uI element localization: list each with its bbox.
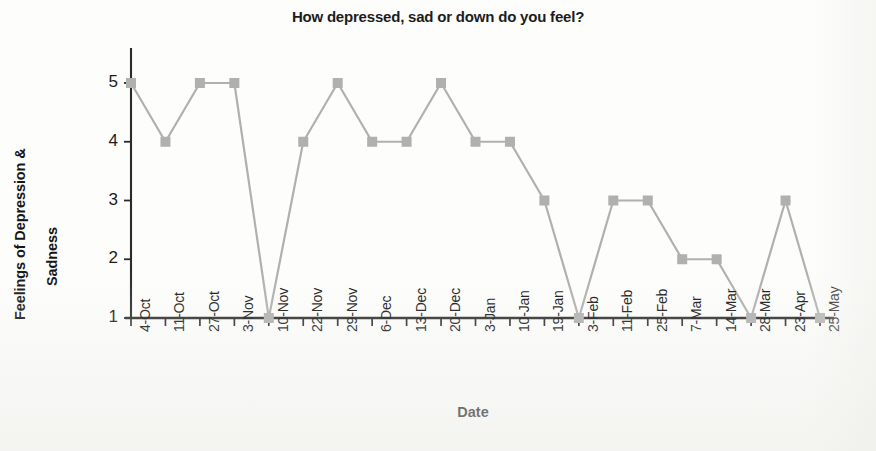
- x-tick-label: 6-Dec: [378, 296, 394, 332]
- data-point-marker: [195, 78, 205, 88]
- data-point-marker: [229, 78, 239, 88]
- data-point-marker: [608, 196, 618, 206]
- data-point-marker: [471, 137, 481, 147]
- x-tick-label: 3-Jan: [482, 298, 498, 332]
- data-point-marker: [643, 196, 653, 206]
- data-point-marker: [781, 196, 791, 206]
- data-point-marker: [574, 313, 584, 323]
- series-polyline: [131, 83, 820, 318]
- axis-ticks: [124, 83, 820, 326]
- y-tick-label: 4: [96, 131, 118, 151]
- series-markers: [126, 78, 825, 323]
- data-point-marker: [677, 254, 687, 264]
- x-axis-title-text: Date: [457, 404, 488, 420]
- data-point-marker: [436, 78, 446, 88]
- data-point-marker: [815, 313, 825, 323]
- x-tick-label: 7-Mar: [688, 296, 704, 332]
- x-tick-label: 22-Nov: [309, 288, 325, 332]
- data-point-marker: [264, 313, 274, 323]
- x-tick-label: 19-Jan: [550, 290, 566, 332]
- y-tick-label: 1: [96, 307, 118, 327]
- x-tick-label: 11-Feb: [619, 290, 635, 332]
- x-tick-label: 25-Feb: [654, 289, 670, 332]
- y-tick-label: 3: [96, 190, 118, 210]
- x-tick-label: 27-Oct: [206, 291, 222, 332]
- x-tick-label: 25-May: [826, 287, 842, 332]
- data-point-marker: [505, 137, 515, 147]
- x-tick-label: 23-Apr: [792, 291, 808, 332]
- data-point-marker: [712, 254, 722, 264]
- x-tick-label: 11-Oct: [171, 292, 187, 332]
- data-point-marker: [539, 196, 549, 206]
- x-tick-label: 3-Nov: [240, 296, 256, 332]
- data-point-marker: [746, 313, 756, 323]
- x-axis-title: Date: [0, 404, 876, 420]
- plot-area: [0, 0, 876, 451]
- y-tick-label: 5: [96, 72, 118, 92]
- data-point-marker: [402, 137, 412, 147]
- x-tick-label: 4-Oct: [137, 299, 153, 332]
- x-tick-label: 28-Mar: [757, 289, 773, 332]
- data-point-marker: [333, 78, 343, 88]
- chart-page: How depressed, sad or down do you feel? …: [0, 0, 876, 451]
- x-tick-label: 10-Jan: [516, 290, 532, 332]
- x-tick-label: 14-Mar: [723, 289, 739, 332]
- data-point-marker: [126, 78, 136, 88]
- data-point-marker: [367, 137, 377, 147]
- x-tick-label: 3-Feb: [585, 296, 601, 332]
- x-tick-label: 20-Dec: [447, 288, 463, 332]
- data-point-marker: [298, 137, 308, 147]
- x-tick-label: 29-Nov: [344, 288, 360, 332]
- series-line: [131, 83, 820, 318]
- data-point-marker: [160, 137, 170, 147]
- x-tick-label: 10-Nov: [275, 288, 291, 332]
- x-tick-label: 13-Dec: [413, 288, 429, 332]
- y-tick-label: 2: [96, 248, 118, 268]
